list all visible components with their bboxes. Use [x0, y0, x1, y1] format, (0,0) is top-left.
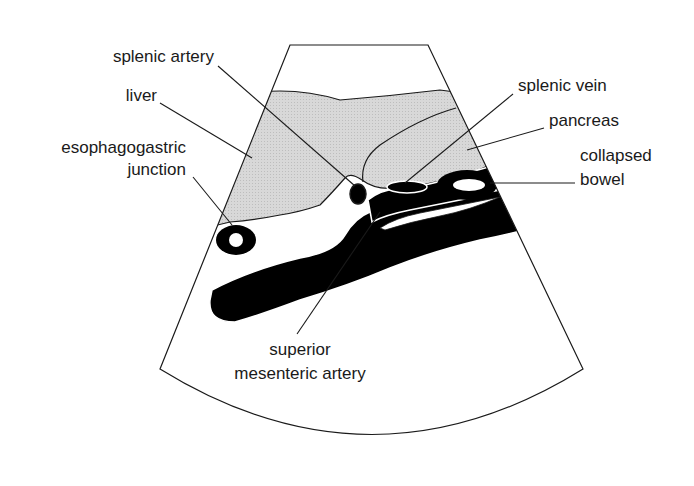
ej-lumen [229, 233, 243, 247]
label-sma-line1: superior [220, 340, 380, 360]
label-bowel-line2: bowel [580, 170, 624, 190]
splenic-artery-shape [350, 184, 366, 204]
bowel-lumen [453, 179, 485, 191]
label-ej-line2: junction [127, 160, 186, 180]
label-ej-line1: esophagogastric [61, 138, 186, 158]
label-bowel-line1: collapsed [580, 146, 652, 166]
label-pancreas: pancreas [549, 111, 619, 131]
leader-ej [193, 177, 232, 225]
label-splenic-vein: splenic vein [518, 76, 607, 96]
label-sma-line2: mesenteric artery [210, 364, 390, 384]
label-liver: liver [126, 86, 157, 106]
label-splenic-artery: splenic artery [113, 47, 214, 67]
splenic-vein-shape [387, 181, 427, 193]
ultrasound-diagram [0, 0, 694, 486]
leader-pancreas [467, 128, 544, 150]
